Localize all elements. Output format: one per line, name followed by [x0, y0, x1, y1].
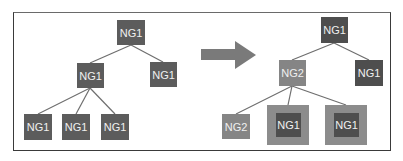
left-l2-node-1: NG1 [62, 114, 90, 140]
left-l2-node-0: NG1 [24, 114, 52, 140]
node-label: NG1 [79, 70, 102, 82]
right-l2-node-0: NG2 [222, 114, 250, 139]
node-label: NG2 [225, 121, 248, 133]
right-root-node: NG1 [321, 17, 348, 43]
node-label: NG1 [65, 121, 88, 133]
left-l2-node-2: NG1 [101, 114, 129, 140]
node-label: NG1 [27, 121, 50, 133]
left-l1-node-0: NG1 [77, 63, 104, 88]
node-label: NG1 [335, 119, 358, 131]
node-label: NG2 [281, 67, 304, 79]
node-label: NG1 [323, 24, 346, 36]
left-l1-node-1: NG1 [150, 62, 177, 87]
right-l1-node-0: NG2 [279, 60, 306, 86]
node-label: NG1 [277, 119, 300, 131]
right-l1-node-1: NG1 [355, 60, 383, 86]
left-root-node: NG1 [117, 20, 145, 45]
node-label: NG1 [358, 67, 381, 79]
node-label: NG1 [152, 69, 175, 81]
right-l2-node-2: NG1 [334, 113, 359, 137]
node-label: NG1 [104, 121, 127, 133]
node-label: NG1 [120, 27, 143, 39]
right-arrow-icon [201, 41, 256, 69]
right-l2-node-1: NG1 [276, 113, 301, 137]
